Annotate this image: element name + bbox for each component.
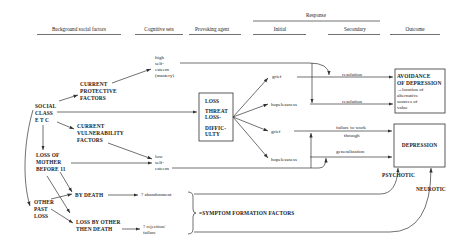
svg-text:self-: self- (155, 61, 164, 66)
node-low-self-esteem: low self- esteem (155, 154, 169, 171)
svg-text:? rejection/: ? rejection/ (143, 224, 166, 229)
svg-text:low: low (155, 154, 163, 159)
initial-grief-1: grief (272, 74, 282, 79)
header-provoking: Provoking agent (195, 26, 230, 32)
node-protective-factors: CURRENT PROTECTIVE FACTORS (80, 81, 117, 101)
svg-text:BEFORE 11: BEFORE 11 (36, 166, 66, 172)
node-vulnerability-factors: CURRENT VULNERABILITY FACTORS (77, 123, 124, 143)
svg-text:failure: failure (143, 230, 157, 235)
svg-text:SOCIAL: SOCIAL (35, 103, 57, 109)
svg-text:LOSS: LOSS (34, 213, 48, 219)
label-psychotic: PSYCHOTIC (382, 172, 415, 178)
svg-text:sources of: sources of (397, 99, 418, 104)
svg-text:LOSS BY OTHER: LOSS BY OTHER (76, 219, 121, 225)
svg-text:esteem: esteem (155, 166, 169, 171)
node-other-past-loss: OTHER PAST LOSS (34, 199, 54, 219)
secondary-through: through (344, 133, 360, 138)
symptom-formation-factors: =SYMPTOM FORMATION FACTORS (199, 210, 294, 216)
node-social-class: SOCIAL CLASS E T C (35, 103, 57, 123)
svg-text:E T C: E T C (35, 117, 49, 123)
svg-text:FACTORS: FACTORS (80, 95, 106, 101)
header-background: Background social factors (52, 26, 106, 32)
svg-text:AVOIDANCE: AVOIDANCE (397, 73, 431, 79)
initial-hopelessness-2: hopelessness (271, 157, 297, 162)
node-rejection-failure: ? rejection/ failure (143, 224, 166, 235)
node-provoking-agent-box: LOSS THREAT LOSS- DIFFIC- ULTY (199, 93, 233, 141)
svg-text:OF DEPRESSION: OF DEPRESSION (397, 80, 441, 86)
node-depression: DEPRESSION (394, 124, 445, 167)
label-neurotic: NEUROTIC (416, 186, 446, 192)
header-outcome: Outcome (405, 26, 425, 32)
svg-text:LOSS-: LOSS- (205, 114, 221, 120)
secondary-resolution-1: resolution (342, 72, 362, 77)
svg-text:VULNERABILITY: VULNERABILITY (77, 130, 124, 136)
svg-text:value: value (397, 105, 409, 110)
column-headers: Background social factors Cognitive sets… (37, 12, 440, 35)
svg-text:LOSS: LOSS (205, 98, 219, 104)
header-response: Response (306, 12, 327, 18)
svg-text:esteem: esteem (155, 67, 169, 72)
svg-text:LOSS OF: LOSS OF (36, 152, 60, 158)
secondary-resolution-2: resolution (342, 99, 362, 104)
svg-text:PROTECTIVE: PROTECTIVE (80, 88, 117, 94)
svg-text:FACTORS: FACTORS (77, 137, 103, 143)
svg-text:self-: self- (155, 160, 164, 165)
node-avoidance-of-depression: AVOIDANCE OF DEPRESSION →location of alt… (395, 69, 445, 113)
svg-text:CURRENT: CURRENT (80, 81, 108, 87)
secondary-generalization: generalization (336, 149, 365, 154)
node-loss-of-mother: LOSS OF MOTHER BEFORE 11 (36, 152, 66, 172)
svg-text:OTHER: OTHER (34, 199, 54, 205)
svg-text:alternative: alternative (397, 93, 419, 98)
header-secondary: Secondary (344, 26, 366, 32)
initial-grief-2: grief (271, 129, 281, 134)
secondary-failure-to-work: failure to work (336, 125, 366, 130)
node-abandonment: ? abandonment (141, 192, 172, 197)
svg-text:(mastery): (mastery) (155, 73, 174, 78)
svg-text:CLASS: CLASS (35, 110, 53, 116)
svg-text:MOTHER: MOTHER (36, 159, 61, 165)
svg-text:THEN DEATH: THEN DEATH (76, 226, 113, 232)
svg-text:CURRENT: CURRENT (77, 123, 105, 129)
header-initial: Initial (274, 26, 287, 32)
svg-text:ULTY: ULTY (205, 131, 220, 137)
header-cognitive: Cognitive sets (144, 26, 174, 32)
svg-text:high: high (155, 55, 164, 60)
node-high-self-esteem: high self- esteem (mastery) (155, 55, 174, 78)
node-by-death: BY DEATH (75, 192, 104, 198)
depression-causal-model-diagram: Background social factors Cognitive sets… (0, 0, 470, 252)
svg-text:DEPRESSION: DEPRESSION (402, 142, 437, 148)
initial-hopelessness-1: hopelessness (271, 102, 297, 107)
svg-text:→location of: →location of (397, 87, 424, 92)
node-loss-by-other: LOSS BY OTHER THEN DEATH (76, 219, 121, 232)
svg-text:PAST: PAST (34, 206, 48, 212)
